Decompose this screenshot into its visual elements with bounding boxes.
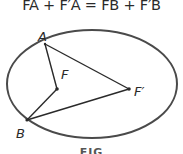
label-f: F	[61, 67, 69, 82]
label-fprime: F′	[134, 84, 144, 99]
figure-caption: FIG	[0, 146, 183, 154]
point-b	[25, 118, 28, 121]
segment-a-f	[45, 44, 57, 89]
segment-a-fprime	[45, 44, 129, 89]
label-b: B	[16, 126, 25, 141]
ellipse-diagram: A F F′ B	[0, 0, 183, 154]
focus-f-point	[55, 87, 59, 91]
label-a: A	[37, 29, 47, 44]
ellipse-curve	[7, 30, 177, 138]
focus-fprime-point	[127, 87, 131, 91]
